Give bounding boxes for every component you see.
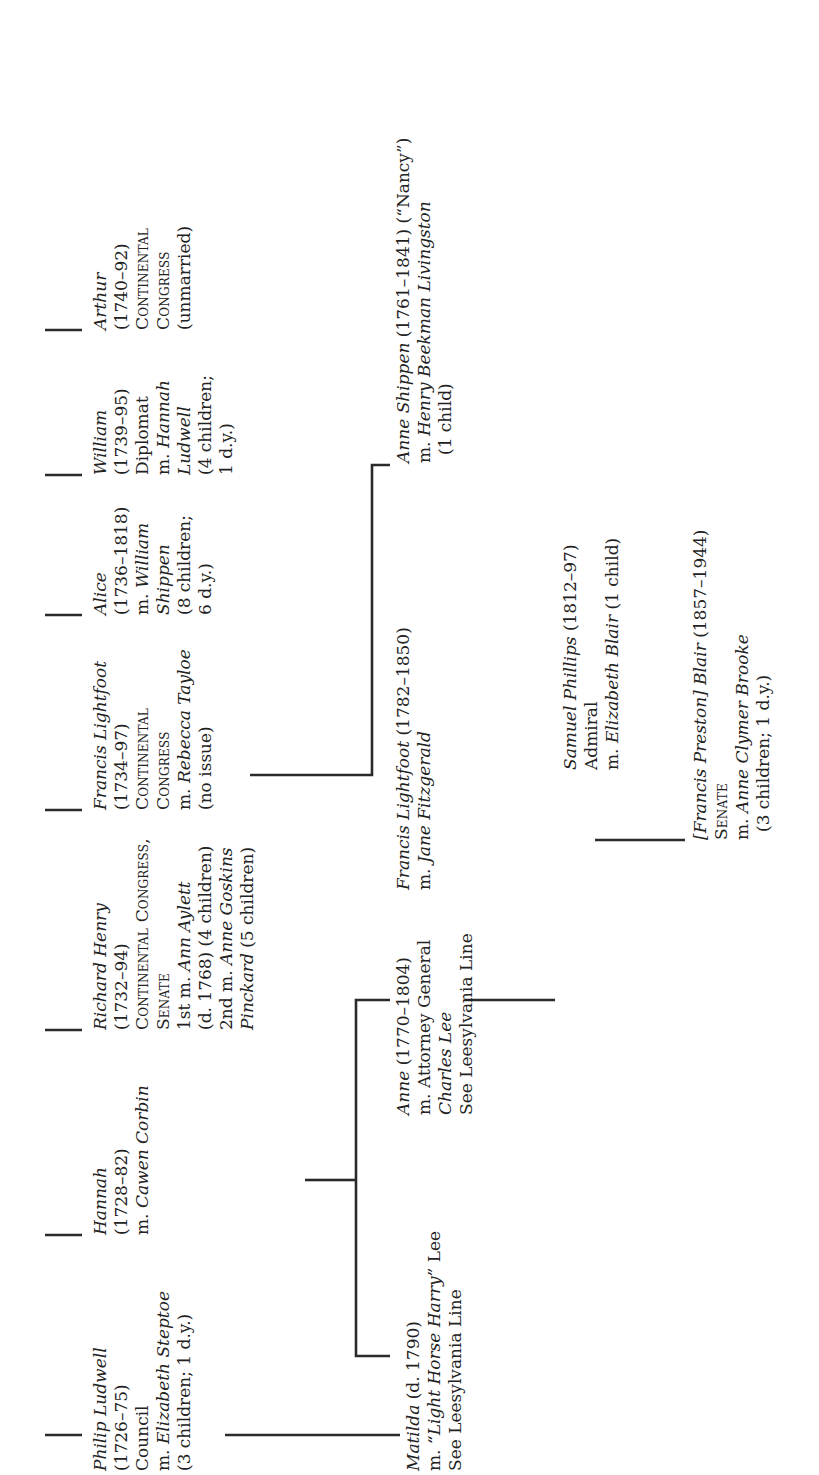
person-richard-henry: Richard Henry (1732–94) Continental Cong… xyxy=(90,838,258,1030)
person-dates: (1739–95) xyxy=(111,375,132,475)
cross-reference: See Leesylvania Line xyxy=(456,933,477,1115)
person-dates: (d. 1790) xyxy=(403,1321,423,1399)
children-note: (unmarried) xyxy=(174,226,195,330)
children-note: (1 child) xyxy=(435,138,456,463)
spouse-line: m. Rebecca Tayloe xyxy=(174,649,195,810)
children-note: Pinckard (5 children) xyxy=(237,838,258,1030)
person-office: Senate xyxy=(711,530,732,840)
person-name: William xyxy=(90,410,110,475)
children-note: (4 children; xyxy=(195,375,216,475)
person-name: Alice xyxy=(90,572,110,615)
spouse-line: m. Jane Fitzgerald xyxy=(414,627,435,890)
person-name: [Francis Preston] Blair xyxy=(690,643,710,840)
spouse-surname: Ludwell xyxy=(174,406,194,475)
person-anne-shippen: Anne Shippen (1761–1841) (“Nancy”) m. He… xyxy=(393,138,456,463)
spouse-line: 2nd m. Anne Goskins xyxy=(216,838,237,1030)
person-name: Samuel Phillips xyxy=(560,637,580,771)
spouse-surname: Shippen xyxy=(153,544,173,615)
person-dates: (1812–97) xyxy=(560,544,580,631)
person-name: Francis Lightfoot xyxy=(90,661,110,810)
person-francis-lightfoot-jr: Francis Lightfoot (1782–1850) m. Jane Fi… xyxy=(393,627,435,890)
spouse-name: Charles Lee xyxy=(435,1012,455,1115)
person-name: Anne xyxy=(393,1071,413,1115)
person-matilda: Matilda (d. 1790) m. “Light Horse Harry”… xyxy=(403,1231,466,1471)
person-dates: (1782–1850) xyxy=(393,627,413,735)
person-name: Philip Ludwell xyxy=(90,1347,110,1471)
person-hannah: Hannah (1728–82) m. Cawen Corbin xyxy=(90,1085,153,1235)
cross-reference: See Leesylvania Line xyxy=(445,1231,466,1471)
person-name: Richard Henry xyxy=(90,903,110,1030)
person-dates: (1734–97) xyxy=(111,649,132,810)
spouse-line: m. William xyxy=(132,507,153,615)
person-nickname: (“Nancy”) xyxy=(393,138,413,224)
genealogy-chart: Philip Ludwell (1726–75) Council m. Eliz… xyxy=(0,0,819,1475)
person-name: Hannah xyxy=(90,1167,110,1235)
spouse-line: 1st m. Ann Aylett xyxy=(174,838,195,1030)
children-note: 6 d.y.) xyxy=(195,507,216,615)
person-office: Admiral xyxy=(581,538,602,770)
person-anne: Anne (1770–1804) m. Attorney General Cha… xyxy=(393,933,477,1115)
children-note: (d. 1768) (4 children) xyxy=(195,838,216,1030)
person-name: Matilda xyxy=(403,1405,423,1471)
person-dates: (1732–94) xyxy=(111,838,132,1030)
person-dates: (1857–1944) xyxy=(690,530,710,638)
person-office: Continental xyxy=(132,649,153,810)
person-william: William (1739–95) Diplomat m. Hannah Lud… xyxy=(90,375,237,475)
person-dates: (1736–1818) xyxy=(111,507,132,615)
spouse-line: m. Hannah xyxy=(153,375,174,475)
person-dates: (1761–1841) xyxy=(393,229,413,337)
spouse-line: m. Cawen Corbin xyxy=(132,1085,153,1235)
children-note: (3 children; 1 d.y.) xyxy=(174,1291,195,1471)
person-office: Congress xyxy=(153,649,174,810)
person-name: Anne Shippen xyxy=(393,343,413,463)
person-dates: (1728–82) xyxy=(111,1085,132,1235)
spouse-line: m. Henry Beekman Livingston xyxy=(414,138,435,463)
spouse-line: m. Attorney General xyxy=(414,933,435,1115)
person-office: Council xyxy=(132,1291,153,1471)
person-name: Francis Lightfoot xyxy=(393,741,413,890)
person-office: Diplomat xyxy=(132,375,153,475)
person-philip-ludwell: Philip Ludwell (1726–75) Council m. Eliz… xyxy=(90,1291,195,1471)
person-dates: (1726–75) xyxy=(111,1291,132,1471)
children-note: (3 children; 1 d.y.) xyxy=(753,530,774,840)
person-dates: (1770–1804) xyxy=(393,957,413,1065)
person-office: Congress xyxy=(153,226,174,330)
spouse-line: m. “Light Horse Harry” Lee xyxy=(424,1231,445,1471)
person-name: Arthur xyxy=(90,273,110,330)
person-office: Senate xyxy=(153,838,174,1030)
person-office: Continental Congress, xyxy=(132,838,153,1030)
children-note: (8 children; xyxy=(174,507,195,615)
person-alice: Alice (1736–1818) m. William Shippen (8 … xyxy=(90,507,216,615)
children-note: 1 d.y.) xyxy=(216,375,237,475)
spouse-line: m. Anne Clymer Brooke xyxy=(732,530,753,840)
children-note: (no issue) xyxy=(195,649,216,810)
person-francis-lightfoot-sr: Francis Lightfoot (1734–97) Continental … xyxy=(90,649,216,810)
person-francis-preston-blair: [Francis Preston] Blair (1857–1944) Sena… xyxy=(690,530,774,840)
person-office: Continental xyxy=(132,226,153,330)
spouse-line: m. Elizabeth Blair (1 child) xyxy=(602,538,623,770)
spouse-line: m. Elizabeth Steptoe xyxy=(153,1291,174,1471)
person-dates: (1740–92) xyxy=(111,226,132,330)
person-samuel-phillips: Samuel Phillips (1812–97) Admiral m. Eli… xyxy=(560,538,623,770)
person-arthur: Arthur (1740–92) Continental Congress (u… xyxy=(90,226,195,330)
